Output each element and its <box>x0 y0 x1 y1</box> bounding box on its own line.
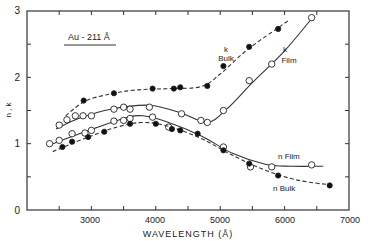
n-bulk-point <box>169 126 174 131</box>
n-film-point <box>120 117 126 123</box>
k-bulk-point <box>276 26 281 31</box>
y-axis-title: n , k <box>4 101 13 117</box>
k-film-point <box>64 117 70 123</box>
k-film-label-k: k <box>283 45 288 54</box>
n-film-point <box>69 131 75 137</box>
n-film-point <box>198 117 204 123</box>
n-bulk-point <box>86 134 91 139</box>
n-film-point <box>149 114 155 120</box>
k-bulk-point <box>205 83 210 88</box>
n-bulk-point <box>327 183 332 188</box>
k-bulk-point <box>81 98 86 103</box>
k-film-point <box>308 14 314 20</box>
sample-annotation: Au - 211 Å <box>68 32 110 42</box>
n-film-point <box>308 162 314 168</box>
k-film-point <box>178 111 184 117</box>
n-bulk-point <box>102 129 107 134</box>
n-bulk-point <box>178 128 183 133</box>
n-bulk-label: n Bulk <box>273 184 296 193</box>
n-film-label: n Film <box>278 152 300 161</box>
k-film-point <box>204 119 210 125</box>
y-tick-2: 2 <box>14 72 20 83</box>
n-film-point <box>127 115 133 121</box>
n-bulk-point <box>60 144 65 149</box>
x-axis-title: WAVELENGTH (Å) <box>143 229 234 239</box>
k-film-point <box>246 77 252 83</box>
k-film-point <box>111 106 117 112</box>
y-tick-3: 3 <box>14 5 20 16</box>
k-film-point <box>72 113 78 119</box>
k-film-point <box>120 104 126 110</box>
n-bulk-point <box>221 148 226 153</box>
y-tick-1: 1 <box>14 138 20 149</box>
x-tick-7000: 7000 <box>340 215 360 225</box>
k-film-point <box>220 107 226 113</box>
k-bulk-point <box>221 63 226 68</box>
n-bulk-point <box>195 131 200 136</box>
k-bulk-label-k: k <box>224 45 229 54</box>
n-film-point <box>56 137 62 143</box>
k-bulk-point <box>247 44 252 49</box>
k-bulk-point <box>178 85 183 90</box>
y-tick-0: 0 <box>14 205 20 216</box>
k-film-point <box>127 106 133 112</box>
k-film-point <box>146 104 152 110</box>
n-film-point <box>46 140 52 146</box>
n-bulk-point <box>276 173 281 178</box>
k-bulk-point <box>150 86 155 91</box>
k-bulk-point <box>111 91 116 96</box>
x-tick-4000: 4000 <box>145 215 165 225</box>
x-tick-6000: 6000 <box>275 215 295 225</box>
k-film-point <box>80 113 86 119</box>
n-bulk-point <box>153 121 158 126</box>
k-film-point <box>88 113 94 119</box>
n-film-point <box>88 127 94 133</box>
k-bulk-label: Bulk <box>218 54 235 63</box>
n-film-point <box>269 164 275 170</box>
n-film-point <box>111 118 117 124</box>
n-bulk-point <box>127 121 132 126</box>
k-bulk-point <box>171 86 176 91</box>
x-tick-3000: 3000 <box>80 215 100 225</box>
n-bulk-point <box>69 139 74 144</box>
k-film-label: Film <box>281 56 296 65</box>
chart: 3 2 1 0 3000 4000 5000 6000 7000 WAVELEN… <box>0 0 368 241</box>
k-film-point <box>269 61 275 67</box>
x-tick-5000: 5000 <box>210 215 230 225</box>
n-bulk-point <box>247 161 252 166</box>
k-film-point <box>56 122 62 128</box>
